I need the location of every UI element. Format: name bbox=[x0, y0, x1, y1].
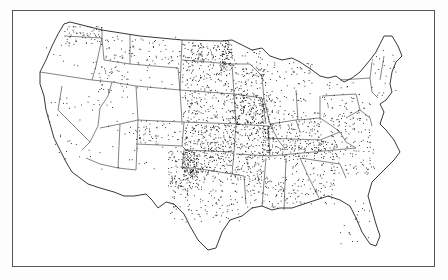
map-canvas bbox=[0, 0, 448, 280]
us-dot-map bbox=[0, 0, 448, 280]
us-outline bbox=[40, 22, 402, 250]
